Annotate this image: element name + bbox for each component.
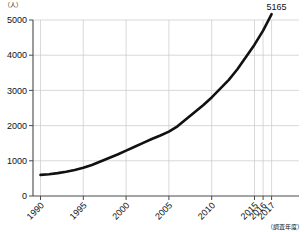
y-tick-labels: 0 1000 2000 3000 4000 5000 [7,15,27,201]
x-tick-marks [41,196,272,200]
y-tick-label: 1000 [7,156,27,166]
horizontal-gridlines [33,20,299,161]
chart-canvas: 0 1000 2000 3000 4000 5000 1990 1995 200… [0,0,306,232]
x-tick-label: 1995 [67,200,88,221]
x-axis-caption: （調査年度） [267,222,303,231]
x-tick-label: 2005 [153,200,174,221]
y-tick-label: 3000 [7,86,27,96]
x-tick-label: 2000 [110,200,131,221]
y-tick-label: 2000 [7,121,27,131]
x-tick-label: 2010 [196,200,217,221]
line-chart: （人） [0,0,306,232]
x-tick-labels: 1990 1995 2000 2005 2010 2015 2016 2017 [25,200,277,221]
data-line-series [41,14,272,175]
y-tick-marks [29,20,33,196]
y-tick-label: 5000 [7,15,27,25]
data-point-value-label: 5165 [267,2,287,12]
y-tick-label: 4000 [7,50,27,60]
x-tick-label: 1990 [25,200,46,221]
y-tick-label: 0 [22,191,27,201]
